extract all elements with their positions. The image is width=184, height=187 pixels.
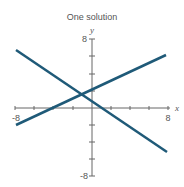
x-axis-label: x [174, 103, 179, 113]
y-tick-min: -8 [80, 171, 88, 181]
y-tick-max: 8 [82, 34, 87, 44]
x-tick-min: -8 [12, 113, 20, 123]
chart: One solution -8 8 8 -8 x y [0, 0, 184, 187]
y-axis-label: y [89, 25, 94, 35]
chart-title: One solution [67, 12, 118, 22]
x-tick-max: 8 [165, 113, 170, 123]
